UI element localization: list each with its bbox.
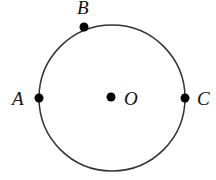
point-o bbox=[107, 93, 116, 102]
label-o: O bbox=[124, 88, 138, 109]
label-a: A bbox=[10, 88, 24, 109]
point-c bbox=[181, 94, 190, 103]
label-c: C bbox=[197, 88, 210, 109]
point-a bbox=[35, 94, 44, 103]
point-b bbox=[80, 23, 89, 32]
label-b: B bbox=[77, 0, 89, 18]
circle-diagram: A B O C bbox=[0, 0, 216, 180]
